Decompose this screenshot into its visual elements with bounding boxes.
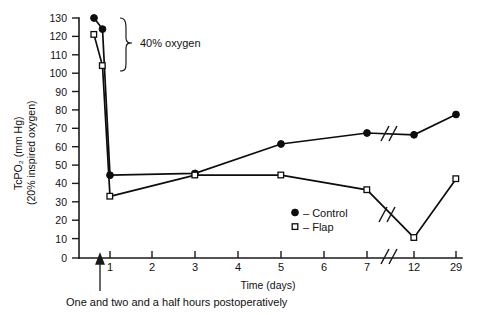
series-flap-markers: [91, 32, 459, 241]
data-point: [278, 141, 285, 148]
data-point: [364, 130, 371, 137]
data-point: [278, 172, 284, 178]
data-point: [453, 176, 459, 182]
figure-container: 130 120 110 100 90 80 70 60 50 40 30 20 …: [0, 0, 479, 315]
y-axis-group: 130 120 110 100 90 80 70 60 50 40 30 20 …: [12, 12, 79, 264]
x-tick-label: 6: [321, 261, 327, 273]
x-tick-label: 4: [235, 261, 241, 273]
x-tick-label: 29: [450, 261, 462, 273]
legend-filled-circle-icon: [292, 209, 299, 216]
y-tick-label: 110: [50, 49, 67, 61]
data-point: [107, 193, 113, 199]
data-point: [453, 111, 460, 118]
data-point: [364, 187, 370, 193]
data-point: [107, 172, 114, 179]
y-tick-label: 30: [55, 196, 67, 208]
y-tick-label: 20: [55, 214, 67, 226]
x-tick-label: 3: [192, 261, 198, 273]
tcpo2-line-chart: 130 120 110 100 90 80 70 60 50 40 30 20 …: [0, 0, 479, 315]
postoperative-caption: One and two and a half hours postoperati…: [66, 296, 288, 308]
x-axis-group: 1 2 3 4 5 6 7 12 29 Time (days): [79, 249, 462, 291]
x-tick-label: 12: [408, 261, 420, 273]
x-tick-label: 7: [364, 261, 370, 273]
y-tick-label: 50: [55, 159, 67, 171]
legend-item-control: – Control: [292, 207, 348, 219]
y-tick-label: 100: [49, 67, 67, 79]
y-tick-label: 120: [49, 30, 67, 42]
x-axis-tick-labels: 1 2 3 4 5 6 7 12 29: [107, 261, 462, 273]
legend-label-flap: – Flap: [303, 221, 334, 233]
series-flap: [91, 32, 459, 241]
x-tick-label: 1: [107, 261, 113, 273]
y-axis-title-line1: TcPO₂ (mm Hg): [12, 117, 24, 191]
x-axis-title: Time (days): [240, 279, 295, 291]
chart-legend: – Control – Flap: [292, 207, 348, 233]
x-axis-break-marks: [381, 249, 397, 264]
oxygen-annotation-label: 40% oxygen: [140, 37, 201, 49]
y-tick-label: 90: [55, 86, 67, 98]
y-tick-label: 60: [55, 141, 67, 153]
annotation-arrow-head-icon: [96, 254, 104, 264]
x-axis-ticks: [110, 251, 456, 258]
data-point: [99, 26, 106, 33]
y-axis-tick-labels: 130 120 110 100 90 80 70 60 50 40 30 20 …: [49, 12, 67, 264]
legend-item-flap: – Flap: [292, 221, 333, 233]
legend-label-control: – Control: [303, 207, 348, 219]
y-tick-label: 130: [49, 12, 67, 24]
data-point: [411, 235, 417, 241]
data-point: [91, 32, 97, 38]
y-tick-label: 70: [55, 122, 67, 134]
y-tick-label: 40: [55, 177, 67, 189]
curly-brace-icon: [120, 18, 132, 71]
y-tick-label: 0: [61, 252, 67, 264]
legend-open-square-icon: [292, 224, 298, 230]
data-point: [411, 131, 418, 138]
y-tick-label: 10: [55, 233, 67, 245]
x-tick-label: 2: [149, 261, 155, 273]
x-tick-label: 5: [278, 261, 284, 273]
oxygen-bracket-annotation: 40% oxygen: [120, 18, 201, 71]
y-axis-title-line2: (20% inspired oxygen): [25, 101, 37, 205]
series-flap-line: [94, 35, 456, 238]
data-point: [192, 172, 198, 178]
y-tick-label: 80: [55, 104, 67, 116]
data-point: [100, 63, 106, 69]
data-point: [91, 15, 98, 22]
y-axis-ticks: [72, 18, 79, 258]
